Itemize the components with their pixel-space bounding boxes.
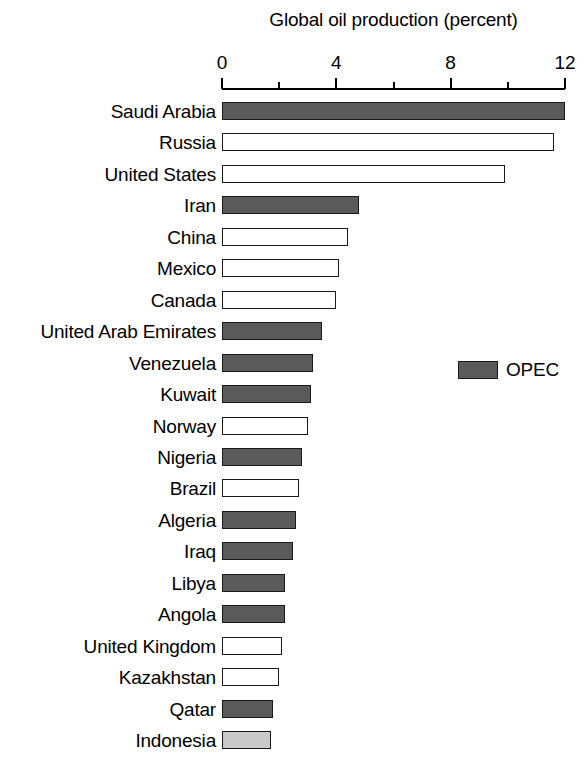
bar-row-label: Norway bbox=[153, 415, 216, 439]
bar-row-label: Saudi Arabia bbox=[111, 100, 216, 124]
bar-row: Norway bbox=[0, 415, 588, 439]
bar-opec bbox=[222, 511, 296, 529]
bar-opec bbox=[222, 605, 285, 623]
bar-non-opec bbox=[222, 133, 554, 151]
bar-row-label: United Kingdom bbox=[84, 635, 216, 659]
bar-row: Kuwait bbox=[0, 383, 588, 407]
bar-other bbox=[222, 731, 271, 749]
bar-row-label: Canada bbox=[151, 289, 216, 313]
bar-opec bbox=[222, 574, 285, 592]
bar-opec bbox=[222, 385, 311, 403]
bar-row: Russia bbox=[0, 131, 588, 155]
bar-row-label: Venezuela bbox=[129, 352, 216, 376]
bar-row: Mexico bbox=[0, 257, 588, 281]
bar-row: Saudi Arabia bbox=[0, 100, 588, 124]
bar-chart: Global oil production (percent) 04812 Sa… bbox=[0, 0, 588, 771]
bar-row: China bbox=[0, 226, 588, 250]
bar-rows: Saudi ArabiaRussiaUnited StatesIranChina… bbox=[0, 0, 588, 771]
bar-opec bbox=[222, 700, 273, 718]
bar-row-label: Russia bbox=[159, 131, 216, 155]
bar-row-label: Iraq bbox=[184, 540, 216, 564]
bar-non-opec bbox=[222, 259, 339, 277]
bar-row: Iran bbox=[0, 194, 588, 218]
bar-row-label: United Arab Emirates bbox=[40, 320, 216, 344]
bar-row-label: Algeria bbox=[158, 509, 216, 533]
bar-row-label: Indonesia bbox=[135, 729, 216, 753]
bar-opec bbox=[222, 542, 293, 560]
bar-row-label: China bbox=[167, 226, 216, 250]
bar-row-label: United States bbox=[105, 163, 216, 187]
bar-non-opec bbox=[222, 228, 348, 246]
bar-row-label: Qatar bbox=[169, 698, 216, 722]
bar-opec bbox=[222, 196, 359, 214]
legend-swatch-opec bbox=[458, 361, 498, 379]
bar-opec bbox=[222, 102, 565, 120]
bar-row: Kazakhstan bbox=[0, 666, 588, 690]
legend-label-opec: OPEC bbox=[506, 360, 559, 380]
bar-row-label: Iran bbox=[184, 194, 216, 218]
bar-row: Canada bbox=[0, 289, 588, 313]
bar-opec bbox=[222, 354, 313, 372]
bar-row-label: Brazil bbox=[170, 477, 216, 501]
bar-row-label: Libya bbox=[172, 572, 216, 596]
bar-row: United States bbox=[0, 163, 588, 187]
bar-non-opec bbox=[222, 165, 505, 183]
bar-non-opec bbox=[222, 417, 308, 435]
bar-opec bbox=[222, 448, 302, 466]
bar-opec bbox=[222, 322, 322, 340]
bar-row-label: Kazakhstan bbox=[119, 666, 216, 690]
bar-row: United Kingdom bbox=[0, 635, 588, 659]
bar-non-opec bbox=[222, 479, 299, 497]
bar-row: Angola bbox=[0, 603, 588, 627]
bar-non-opec bbox=[222, 668, 279, 686]
bar-row: Brazil bbox=[0, 477, 588, 501]
bar-row: Qatar bbox=[0, 698, 588, 722]
bar-row-label: Kuwait bbox=[160, 383, 216, 407]
bar-row: Libya bbox=[0, 572, 588, 596]
bar-row-label: Mexico bbox=[157, 257, 216, 281]
bar-row-label: Nigeria bbox=[157, 446, 216, 470]
bar-row: Nigeria bbox=[0, 446, 588, 470]
bar-non-opec bbox=[222, 291, 336, 309]
bar-row: Iraq bbox=[0, 540, 588, 564]
legend: OPEC bbox=[458, 360, 559, 380]
bar-row: Indonesia bbox=[0, 729, 588, 753]
bar-row: Algeria bbox=[0, 509, 588, 533]
bar-row: United Arab Emirates bbox=[0, 320, 588, 344]
bar-row-label: Angola bbox=[158, 603, 216, 627]
bar-non-opec bbox=[222, 637, 282, 655]
